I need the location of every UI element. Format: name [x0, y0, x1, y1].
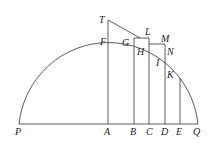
label-d: D: [160, 126, 169, 137]
label-l: L: [144, 26, 151, 37]
label-c: C: [146, 126, 153, 137]
label-g: G: [122, 37, 129, 48]
label-p: P: [14, 126, 21, 137]
label-a: A: [103, 126, 111, 137]
label-h: H: [136, 46, 145, 57]
label-m: M: [160, 33, 170, 44]
label-e: E: [175, 126, 182, 137]
label-t: T: [99, 14, 106, 25]
label-b: B: [130, 126, 136, 137]
label-n: N: [166, 46, 175, 57]
label-f: F: [99, 36, 107, 47]
label-k: K: [166, 69, 175, 80]
label-q: Q: [193, 126, 201, 137]
semicircle-diagram: T F G L M H N I K P A B C D E Q: [0, 0, 208, 151]
tangent-line: [108, 20, 140, 38]
label-i: I: [155, 57, 160, 68]
